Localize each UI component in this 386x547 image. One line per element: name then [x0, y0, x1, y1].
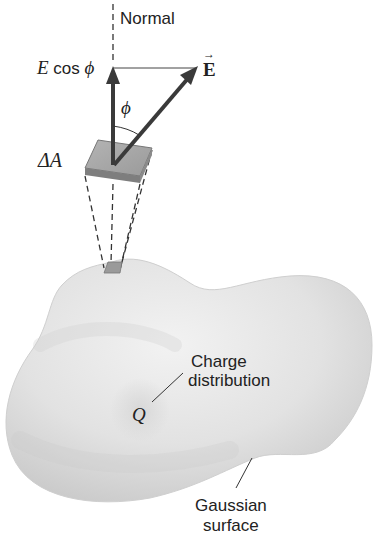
gaussian-surface-line1: Gaussian	[195, 496, 267, 516]
charge-distribution-line1: Charge	[188, 352, 270, 371]
gaussian-surface-line2: surface	[195, 516, 267, 536]
area-element-label: ΔA	[38, 150, 62, 170]
gaussian-surface-diagram: Normal E cos ϕ E → ϕ ΔA Q Charge distrib…	[0, 0, 386, 547]
field-vector-label: E →	[203, 60, 216, 79]
normal-component-arrowhead	[106, 66, 120, 84]
charge-distribution-line2: distribution	[188, 371, 270, 390]
angle-phi-label: ϕ	[121, 98, 131, 117]
e-cos-phi-label: E cos ϕ	[37, 58, 94, 77]
charge-distribution-label: Charge distribution	[188, 352, 270, 390]
field-vector-symbol: E	[203, 59, 216, 80]
e-symbol: E	[37, 57, 49, 78]
diagram-graphics	[0, 0, 386, 547]
phi-symbol: ϕ	[85, 57, 95, 78]
normal-label: Normal	[120, 10, 175, 27]
angle-arc	[113, 126, 139, 135]
gaussian-surface-label: Gaussian surface	[195, 496, 267, 536]
cos-text: cos	[49, 59, 85, 78]
vector-arrow-accent: →	[203, 48, 215, 60]
charge-q-label: Q	[132, 405, 146, 424]
